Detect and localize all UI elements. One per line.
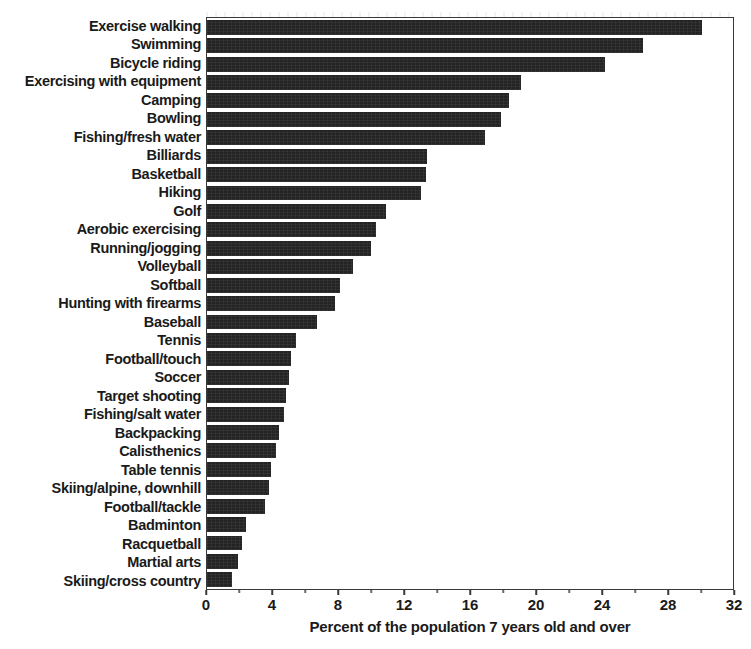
bar-row	[207, 110, 733, 128]
bar-row	[207, 313, 733, 331]
bar	[207, 370, 289, 385]
x-axis-tick-label: 8	[334, 596, 342, 613]
bar-row	[207, 184, 733, 202]
bar	[207, 167, 426, 182]
category-label: Football/touch	[0, 350, 204, 368]
bar	[207, 57, 605, 72]
bar	[207, 296, 335, 311]
x-axis-tick-label: 28	[660, 596, 677, 613]
x-axis-tick-label: 24	[594, 596, 611, 613]
category-label: Softball	[0, 276, 204, 294]
x-axis-title: Percent of the population 7 years old an…	[206, 618, 734, 635]
bar	[207, 388, 286, 403]
bar	[207, 443, 276, 458]
bar-row	[207, 479, 733, 497]
category-label: Hunting with firearms	[0, 294, 204, 312]
bar-row	[207, 405, 733, 423]
bar-row	[207, 350, 733, 368]
bar	[207, 130, 485, 145]
category-label: Calisthenics	[0, 442, 204, 460]
bar	[207, 517, 246, 532]
category-label: Badminton	[0, 516, 204, 534]
bar-row	[207, 55, 733, 73]
plot-area	[206, 17, 734, 590]
category-label: Tennis	[0, 331, 204, 349]
bar-row	[207, 92, 733, 110]
bar-row	[207, 423, 733, 441]
x-axis-minor-tick	[436, 590, 438, 593]
category-label-axis: Exercise walkingSwimmingBicycle ridingEx…	[0, 17, 204, 590]
bar-row	[207, 571, 733, 589]
category-label: Soccer	[0, 368, 204, 386]
category-label: Skiing/alpine, downhill	[0, 479, 204, 497]
bar	[207, 572, 232, 587]
bar	[207, 259, 353, 274]
bar-row	[207, 294, 733, 312]
bar	[207, 425, 279, 440]
x-axis-minor-tick	[238, 590, 240, 593]
bar	[207, 278, 340, 293]
bar	[207, 93, 509, 108]
x-axis-minor-tick	[502, 590, 504, 593]
x-axis-minor-tick	[304, 590, 306, 593]
bar-row	[207, 276, 733, 294]
bar-row	[207, 73, 733, 91]
x-axis-minor-tick	[700, 590, 702, 593]
category-label: Backpacking	[0, 424, 204, 442]
x-axis-tick-label: 0	[202, 596, 210, 613]
x-axis-tick	[535, 590, 537, 595]
category-label: Hiking	[0, 183, 204, 201]
bar	[207, 554, 238, 569]
x-axis-tick	[205, 590, 207, 595]
bar	[207, 149, 427, 164]
x-axis-tick	[403, 590, 405, 595]
bar-row	[207, 147, 733, 165]
bar	[207, 499, 265, 514]
category-label: Bowling	[0, 109, 204, 127]
x-axis-minor-tick	[634, 590, 636, 593]
x-axis-minor-tick	[568, 590, 570, 593]
category-label: Football/tackle	[0, 498, 204, 516]
bar	[207, 351, 291, 366]
bar-row	[207, 239, 733, 257]
x-axis-minor-tick	[370, 590, 372, 593]
x-axis-tick	[469, 590, 471, 595]
category-label: Camping	[0, 91, 204, 109]
bar	[207, 222, 376, 237]
bar-row	[207, 515, 733, 533]
bar-row	[207, 534, 733, 552]
bar-row	[207, 442, 733, 460]
x-axis-tick	[667, 590, 669, 595]
bar-row	[207, 386, 733, 404]
bar-row	[207, 129, 733, 147]
x-axis-tick-label: 20	[528, 596, 545, 613]
category-label: Fishing/salt water	[0, 405, 204, 423]
category-label: Racquetball	[0, 535, 204, 553]
bar-chart: Exercise walkingSwimmingBicycle ridingEx…	[0, 0, 751, 649]
bar-row	[207, 221, 733, 239]
category-label: Target shooting	[0, 387, 204, 405]
x-axis-tick	[733, 590, 735, 595]
category-label: Basketball	[0, 165, 204, 183]
bar-row	[207, 368, 733, 386]
category-label: Golf	[0, 202, 204, 220]
bar	[207, 333, 296, 348]
category-label: Running/jogging	[0, 239, 204, 257]
x-axis-tick	[271, 590, 273, 595]
x-axis-tick-label: 16	[462, 596, 479, 613]
bar	[207, 462, 271, 477]
category-label: Baseball	[0, 313, 204, 331]
x-axis-tick-label: 32	[726, 596, 743, 613]
category-label: Swimming	[0, 35, 204, 53]
category-label: Table tennis	[0, 461, 204, 479]
bar	[207, 241, 371, 256]
bar	[207, 38, 643, 53]
bar-row	[207, 460, 733, 478]
category-label: Billiards	[0, 146, 204, 164]
x-axis-tick	[337, 590, 339, 595]
bar-row	[207, 497, 733, 515]
bar-row	[207, 331, 733, 349]
bar-row	[207, 36, 733, 54]
category-label: Exercising with equipment	[0, 72, 204, 90]
category-label: Volleyball	[0, 257, 204, 275]
